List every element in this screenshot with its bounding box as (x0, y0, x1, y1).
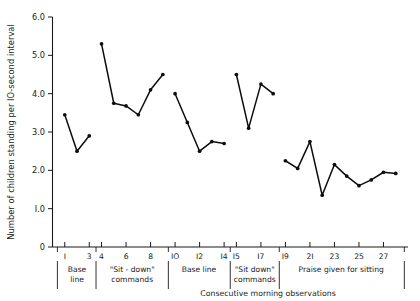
data-point (333, 163, 337, 167)
x-axis-label: Consecutive morning observations (200, 289, 335, 298)
data-point (161, 73, 165, 77)
series-line-4 (285, 142, 395, 196)
y-tick-label: 6.0 (32, 12, 45, 22)
data-point (124, 104, 128, 108)
data-point (271, 92, 275, 96)
data-point (357, 184, 361, 188)
data-point (198, 149, 202, 153)
x-tick-label: 6 (124, 252, 129, 261)
data-point (63, 113, 67, 117)
data-point (247, 126, 251, 130)
x-tick-label: I2 (196, 252, 203, 261)
data-point (369, 178, 373, 182)
x-tick-label: I (64, 252, 66, 261)
data-point (235, 73, 239, 77)
phase-label-line1: Praise given for sitting (299, 265, 384, 274)
x-tick-label: I4 (221, 252, 228, 261)
x-tick-label: 8 (148, 252, 153, 261)
data-point (75, 149, 79, 153)
x-tick-label: 4 (99, 252, 104, 261)
chart-figure: 0I.02.03.04.05.06.0 I3468IOI2I4I5I7I92I2… (0, 0, 420, 301)
data-point (296, 167, 300, 171)
y-tick-label: 4.0 (32, 89, 45, 99)
data-point (173, 92, 177, 96)
data-point (185, 121, 189, 125)
data-point (149, 88, 153, 92)
x-tick-label: IO (171, 252, 179, 261)
x-tick-label: I9 (282, 252, 289, 261)
line-chart: 0I.02.03.04.05.06.0 I3468IOI2I4I5I7I92I2… (0, 0, 420, 301)
y-tick-label: I.0 (35, 204, 45, 214)
phase-label-line1: "Sit - down" (110, 265, 155, 274)
series-line-3 (236, 75, 273, 129)
data-point (394, 172, 398, 176)
y-tick-label: 0 (40, 242, 45, 252)
data-point (87, 134, 91, 138)
data-point (112, 101, 116, 105)
data-point (308, 140, 312, 144)
y-axis-label: Number of children standing per IO-secon… (6, 24, 16, 240)
y-tick-label: 5.0 (32, 50, 45, 60)
phase-label-line1: Base line (182, 265, 217, 274)
y-tick-label: 3.0 (32, 127, 45, 137)
data-point (259, 82, 263, 86)
x-tick-label: 23 (330, 252, 340, 261)
data-point (136, 113, 140, 117)
data-point (284, 159, 288, 163)
data-point (320, 193, 324, 197)
y-tick-label: 2.0 (32, 165, 45, 175)
phase-label-line2: commands (111, 275, 153, 284)
x-tick-label: 27 (379, 252, 389, 261)
data-point (382, 170, 386, 174)
x-tick-label: 25 (354, 252, 364, 261)
y-axis: 0I.02.03.04.05.06.0 (32, 12, 53, 252)
phase-label-line2: line (70, 275, 84, 284)
data-point (210, 140, 214, 144)
series-line-1 (102, 44, 163, 115)
phase-label-line1: Base (68, 265, 87, 274)
data-point (100, 42, 104, 46)
data-point (222, 142, 226, 146)
phase-label-line1: "Sit down" (235, 265, 275, 274)
x-tick-label: I7 (257, 252, 264, 261)
phase-labels-group: Baseline"Sit - down"commandsBase line"Si… (68, 265, 384, 284)
series-line-2 (175, 94, 224, 152)
phase-label-line2: commands (234, 275, 276, 284)
x-tick-label: I5 (233, 252, 240, 261)
x-tick-label: 3 (87, 252, 92, 261)
x-tick-label: 2I (306, 252, 313, 261)
data-series-group (63, 42, 398, 197)
data-point (345, 174, 349, 178)
series-line-0 (65, 115, 90, 151)
